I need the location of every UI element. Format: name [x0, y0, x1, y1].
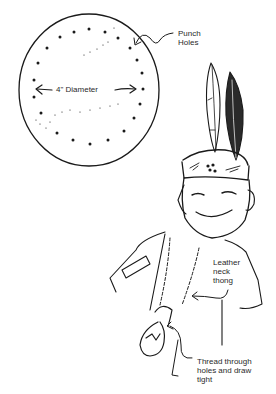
feathers	[207, 63, 244, 160]
illustration-canvas: Punch Holes 4" Diameter Leather neck tho…	[0, 0, 276, 394]
punch-holes-pointer	[136, 33, 173, 43]
leather-thong-pointer	[193, 290, 228, 298]
drawing	[0, 0, 276, 394]
boy-head	[178, 150, 254, 238]
pouch	[140, 306, 172, 356]
boy-body	[110, 232, 262, 345]
label-diameter: 4" Diameter	[56, 85, 98, 94]
label-leather-thong: Leather neck thong	[213, 258, 240, 285]
thread-pointer	[170, 326, 192, 358]
label-thread-through: Thread through holes and draw tight	[197, 357, 252, 384]
label-punch-holes: Punch Holes	[178, 29, 201, 47]
